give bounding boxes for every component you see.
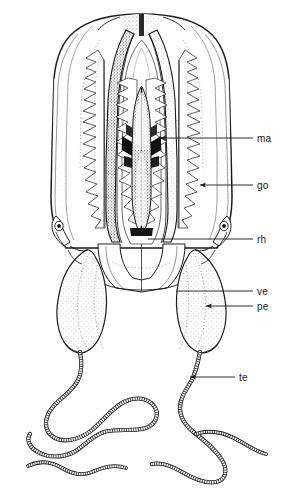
label-ve: ve [257, 286, 268, 297]
label-te: te [239, 372, 248, 383]
label-ma: ma [257, 133, 271, 144]
label-go: go [257, 180, 269, 191]
medusa-anatomy-figure: ma go rh ve pe te [0, 0, 283, 496]
label-rh: rh [257, 234, 266, 245]
label-pe: pe [257, 301, 269, 312]
anatomy-illustration [0, 0, 283, 496]
